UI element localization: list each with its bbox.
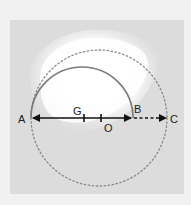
label-g: G xyxy=(73,105,82,117)
label-a: A xyxy=(18,113,26,125)
geometry-diagram: A G O B C xyxy=(0,0,191,205)
label-o: O xyxy=(104,122,113,134)
label-b: B xyxy=(134,103,141,115)
label-c: C xyxy=(170,113,178,125)
